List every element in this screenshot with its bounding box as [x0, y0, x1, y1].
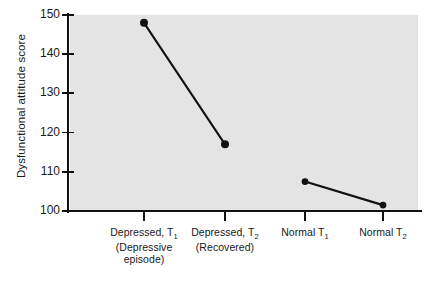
x-label-1-subscript: 2 — [255, 232, 259, 241]
x-tick-2 — [304, 210, 306, 221]
x-axis-line — [67, 210, 422, 212]
y-tick-label-150: 150 — [26, 8, 60, 20]
x-label-2-line1: Normal T1 — [281, 226, 329, 238]
y-axis-line — [67, 13, 69, 213]
x-tick-3 — [382, 210, 384, 221]
x-label-3-line1: Normal T2 — [359, 226, 407, 238]
x-label-1-line1: Depressed, T2 — [191, 226, 259, 238]
x-tick-0 — [143, 210, 145, 221]
x-label-2-subscript: 1 — [325, 232, 329, 241]
x-label-1-line2: (Recovered) — [196, 241, 254, 253]
x-label-0-line3: episode) — [124, 253, 165, 265]
x-tick-1 — [224, 210, 226, 221]
y-tick-label-130: 130 — [26, 86, 60, 98]
x-axis-label-1: Depressed, T2 (Recovered) — [176, 226, 274, 253]
y-tick-100 — [62, 210, 74, 212]
x-label-3-subscript: 2 — [403, 232, 407, 241]
y-tick-label-110: 110 — [26, 165, 60, 177]
chart-figure: Dysfunctional attitude score 150 140 130… — [0, 0, 433, 281]
y-tick-label-100: 100 — [26, 204, 60, 216]
y-tick-label-120: 120 — [26, 126, 60, 138]
x-label-0-line2: (Depressive — [116, 241, 173, 253]
y-tick-130 — [62, 92, 74, 94]
plot-area — [70, 15, 418, 211]
y-tick-110 — [62, 171, 74, 173]
x-axis-label-2: Normal T1 — [262, 226, 348, 241]
y-tick-150 — [62, 14, 74, 16]
x-axis-label-3: Normal T2 — [340, 226, 426, 241]
y-tick-120 — [62, 132, 74, 134]
y-tick-label-140: 140 — [26, 47, 60, 59]
y-tick-140 — [62, 53, 74, 55]
x-label-0-line1: Depressed, T1 — [110, 226, 178, 238]
